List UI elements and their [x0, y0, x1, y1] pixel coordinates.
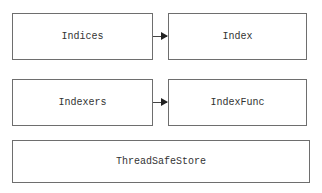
node-label: IndexFunc [210, 97, 264, 108]
node-label: Index [222, 31, 252, 42]
node-label: ThreadSafeStore [116, 156, 206, 167]
arrow-indices-to-index [153, 36, 167, 37]
node-indices: Indices [12, 13, 153, 60]
node-indexfunc: IndexFunc [168, 79, 307, 126]
node-indexers: Indexers [12, 79, 153, 126]
arrow-indexers-to-indexfunc [153, 102, 167, 103]
node-threadsafestore: ThreadSafeStore [12, 140, 310, 183]
node-index: Index [168, 13, 307, 60]
node-label: Indices [61, 31, 103, 42]
node-label: Indexers [58, 97, 106, 108]
